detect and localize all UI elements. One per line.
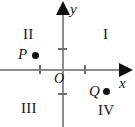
point-marker-p — [32, 52, 39, 59]
point-label-p: P — [18, 47, 27, 62]
x-axis-label: x — [119, 76, 126, 91]
x-axis-tick-positive — [84, 65, 86, 74]
quadrant-label-ii: II — [23, 27, 34, 42]
y-axis-label: y — [70, 2, 77, 17]
quadrant-label-iii: III — [21, 101, 37, 116]
quadrant-label-i: I — [103, 27, 108, 42]
y-axis-tick-negative — [58, 93, 67, 95]
y-axis-arrowhead-icon — [56, 1, 70, 15]
y-axis-tick-positive — [58, 48, 67, 50]
x-axis-tick-negative — [39, 65, 41, 74]
quadrant-label-iv: IV — [98, 103, 114, 118]
coordinate-plane-figure: y x O I II III IV P Q — [0, 0, 135, 127]
point-label-q: Q — [89, 84, 100, 99]
origin-label: O — [54, 72, 64, 86]
point-marker-q — [103, 88, 110, 95]
y-axis-line — [62, 8, 64, 127]
